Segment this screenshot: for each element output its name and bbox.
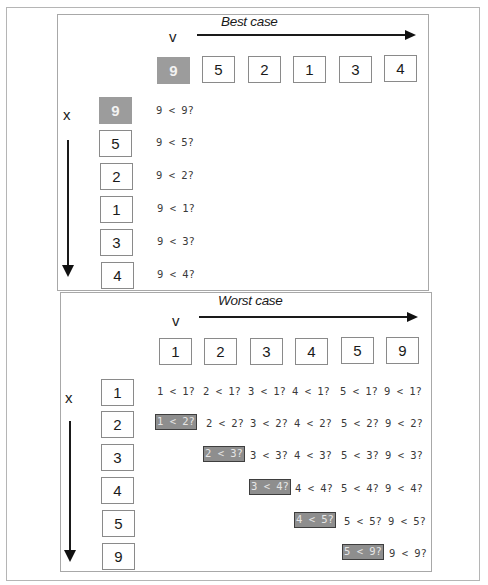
best-case-comparison: 9 < 9? [156, 102, 194, 118]
best-case-v-label: v [169, 28, 177, 45]
worst-case-comparison: 1 < 1? [157, 383, 195, 399]
worst-case-comparison: 3 < 3? [250, 447, 288, 463]
worst-case-title: Worst case [218, 293, 283, 308]
worst-case-comparison: 3 < 1? [248, 383, 286, 399]
best-case-column-cell: 3 [339, 56, 372, 83]
best-case-column-cell: 4 [384, 55, 417, 82]
best-case-row-cell: 3 [100, 229, 133, 256]
worst-case-column-cell: 4 [295, 338, 328, 365]
worst-case-column-cell: 2 [204, 338, 237, 365]
worst-case-comparison: 4 < 2? [294, 415, 332, 431]
worst-case-column-cell: 5 [341, 337, 374, 364]
worst-case-comparison: 4 < 1? [292, 383, 330, 399]
worst-case-row-cell: 1 [101, 379, 134, 406]
worst-case-comparison-highlighted: 5 < 9? [342, 544, 384, 560]
best-case-x-label: x [63, 106, 71, 123]
best-case-row-cell: 5 [99, 130, 132, 157]
worst-case-comparison: 9 < 1? [384, 383, 422, 399]
worst-case-comparison: 5 < 2? [341, 415, 379, 431]
best-case-v-arrow-line [197, 34, 405, 36]
worst-case-comparison: 9 < 3? [385, 447, 423, 463]
worst-case-x-arrow-line [69, 421, 71, 552]
best-case-column-cell: 5 [202, 56, 235, 83]
worst-case-row-cell: 2 [101, 411, 134, 438]
worst-case-comparison: 4 < 4? [295, 480, 333, 496]
worst-case-comparison: 9 < 2? [385, 415, 423, 431]
worst-case-comparison: 2 < 1? [203, 383, 241, 399]
worst-case-x-label: x [65, 389, 73, 406]
worst-case-comparison-highlighted: 2 < 3? [203, 446, 245, 462]
best-case-column-cell: 9 [157, 57, 190, 84]
worst-case-row-cell: 5 [102, 510, 135, 537]
worst-case-comparison-highlighted: 1 < 2? [155, 414, 197, 430]
worst-case-row-cell: 4 [101, 477, 134, 504]
worst-case-column-cell: 3 [250, 338, 283, 365]
worst-case-comparison: 5 < 4? [341, 480, 379, 496]
best-case-comparison: 9 < 1? [157, 200, 195, 216]
best-case-comparison: 9 < 3? [157, 233, 195, 249]
best-case-comparison: 9 < 5? [156, 134, 194, 150]
worst-case-v-arrow-line [199, 316, 407, 318]
worst-case-comparison: 9 < 4? [385, 480, 423, 496]
worst-case-comparison: 5 < 5? [344, 513, 382, 529]
best-case-row-cell: 9 [99, 97, 132, 124]
worst-case-comparison: 2 < 2? [206, 415, 244, 431]
worst-case-comparison: 5 < 1? [340, 383, 378, 399]
worst-case-comparison: 4 < 3? [294, 447, 332, 463]
worst-case-comparison-highlighted: 3 < 4? [249, 479, 291, 495]
worst-case-row-cell: 9 [102, 543, 135, 570]
best-case-x-arrowhead-icon [62, 265, 74, 277]
best-case-title: Best case [221, 14, 278, 29]
best-case-column-cell: 2 [248, 56, 281, 83]
worst-case-comparison: 9 < 5? [388, 513, 426, 529]
worst-case-comparison-highlighted: 4 < 5? [294, 512, 336, 528]
worst-case-comparison: 5 < 3? [341, 447, 379, 463]
worst-case-comparison: 9 < 9? [389, 545, 427, 561]
worst-case-x-arrowhead-icon [64, 550, 76, 562]
best-case-x-arrow-line [67, 140, 69, 266]
best-case-comparison: 9 < 2? [156, 167, 194, 183]
best-case-row-cell: 1 [100, 196, 133, 223]
best-case-comparison: 9 < 4? [157, 266, 195, 282]
worst-case-row-cell: 3 [101, 444, 134, 471]
best-case-v-arrowhead-icon [405, 30, 416, 40]
worst-case-v-label: v [172, 312, 180, 329]
worst-case-v-arrowhead-icon [407, 312, 418, 322]
worst-case-column-cell: 9 [386, 337, 419, 364]
worst-case-comparison: 3 < 2? [250, 415, 288, 431]
best-case-row-cell: 2 [100, 163, 133, 190]
worst-case-column-cell: 1 [159, 338, 192, 365]
best-case-column-cell: 1 [293, 56, 326, 83]
best-case-row-cell: 4 [101, 262, 134, 289]
